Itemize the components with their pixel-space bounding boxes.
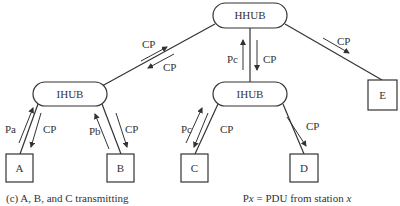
edge-label-pc-center: Pc: [227, 53, 238, 65]
arrow-cp-down-d: [287, 117, 306, 146]
edge-label-pa: Pa: [5, 123, 16, 135]
station-b-label: B: [117, 162, 124, 174]
edge-label-cp-c: CP: [220, 123, 233, 135]
hub-network-diagram: HHUB IHUB IHUB A B C D E CP CP Pc CP CP …: [0, 0, 400, 206]
link-hhub-e: [285, 24, 382, 80]
edge-label-cp-center: CP: [263, 53, 276, 65]
caption-left: (c) A, B, and C transmitting: [6, 192, 129, 205]
edge-label-cp-d: CP: [306, 120, 319, 132]
edge-label-cp-up-left: CP: [142, 38, 155, 50]
edge-label-cp-to-e: CP: [337, 35, 350, 47]
station-e-label: E: [379, 89, 386, 101]
edge-label-cp-b: CP: [125, 123, 138, 135]
ihub-left-label: IHUB: [57, 88, 84, 100]
station-a-label: A: [16, 162, 24, 174]
link-ihub-d: [283, 104, 304, 154]
station-c-label: C: [191, 162, 198, 174]
station-d-label: D: [300, 162, 308, 174]
edge-label-pc-c: Pc: [181, 123, 192, 135]
edge-label-cp-a: CP: [43, 123, 56, 135]
link-ihub-a: [20, 104, 38, 154]
link-ihub-c: [195, 104, 218, 154]
edge-label-cp-down-left: CP: [163, 61, 176, 73]
edge-label-pb: Pb: [89, 125, 101, 137]
link-hhub-ihub-left: [102, 24, 215, 86]
caption-right: Px = PDU from station x: [243, 192, 352, 204]
hhub-label: HHUB: [234, 9, 265, 21]
link-ihub-b: [102, 104, 121, 154]
ihub-right-label: IHUB: [237, 88, 264, 100]
